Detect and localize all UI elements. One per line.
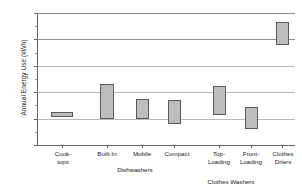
x-label-cook-tops: Cook- tops — [42, 150, 84, 165]
y-tick-mark-200 — [34, 119, 37, 120]
y-tick-mark-600 — [34, 66, 37, 67]
y-tick-mark-400 — [34, 92, 37, 93]
bar-top-loading — [213, 86, 226, 115]
x-tick-mark-compact — [174, 145, 175, 148]
bar-compact — [168, 100, 181, 124]
y-tick-mark-800 — [34, 39, 37, 40]
gridline-400 — [38, 92, 295, 93]
bar-clothes-driers — [276, 22, 289, 44]
plot-area — [37, 13, 295, 145]
x-label-compact: Compact — [157, 150, 197, 158]
x-axis-line — [37, 145, 295, 146]
x-tick-mark-front-loading — [251, 145, 252, 148]
bar-cook-tops — [51, 112, 73, 117]
x-tick-mark-clothes-driers — [282, 145, 283, 148]
y-axis-title: Annual Energy Use (kWh) — [20, 13, 27, 143]
bar-mobile — [136, 99, 149, 120]
x-label-clothes-driers: Clothes Driers — [264, 150, 302, 165]
x-tick-mark-built-in — [107, 145, 108, 148]
x-tick-mark-cook-tops — [62, 145, 63, 148]
x-label-built-in: Built-In — [88, 150, 126, 158]
bar-front-loading — [245, 107, 258, 129]
y-tick-minor-900 — [35, 26, 37, 27]
gridline-1000 — [38, 13, 295, 14]
x-tick-mark-top-loading — [219, 145, 220, 148]
group-label-clothes-washers: Clothes Washers — [188, 178, 274, 186]
x-label-mobile: Mobile — [124, 150, 160, 158]
y-tick-mark-0 — [34, 145, 37, 146]
x-tick-mark-mobile — [142, 145, 143, 148]
y-tick-minor-500 — [35, 79, 37, 80]
group-label-dishwashers: Dishwashers — [99, 166, 171, 174]
gridline-800 — [38, 39, 295, 40]
y-tick-minor-700 — [35, 53, 37, 54]
gridline-600 — [38, 66, 295, 67]
bar-built-in — [100, 84, 114, 118]
y-tick-mark-1000 — [34, 13, 37, 14]
energy-use-bar-chart: Annual Energy Use (kWh) 1 — [0, 0, 302, 192]
y-axis-line — [37, 13, 38, 145]
y-tick-minor-100 — [35, 132, 37, 133]
y-tick-minor-300 — [35, 105, 37, 106]
